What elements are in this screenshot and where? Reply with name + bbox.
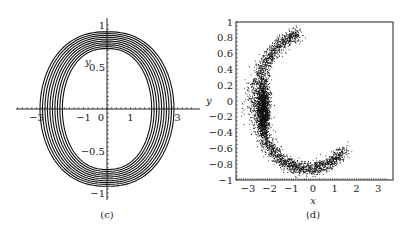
x-tick-label: 1 (332, 183, 338, 194)
y-tick-label: 0.5 (89, 62, 105, 73)
x-tick-label: −2 (262, 183, 277, 194)
x-tick-label: −1 (76, 112, 91, 123)
caption-d: (d) (306, 209, 320, 220)
y-axis-label: y (205, 95, 212, 106)
y-tick-label: −0.5 (81, 146, 105, 157)
x-tick-label: −1 (284, 183, 299, 194)
y-tick-label: −0.4 (209, 127, 233, 138)
y-tick-label: −0.8 (209, 159, 233, 170)
panel-c-phase-portrait: −3−101310.5−0.5−1y(c) (16, 18, 200, 220)
y-tick-label: 1 (99, 20, 105, 31)
y-tick-label: 0.8 (217, 32, 233, 43)
x-tick-label: 2 (353, 183, 359, 194)
y-tick-label: 1 (227, 17, 233, 28)
y-tick-label: 0.2 (217, 80, 233, 91)
panel-d-scatter: −3−2−1012310.80.60.40.20−0.2−0.4−0.6−0.8… (205, 17, 393, 221)
x-tick-label: 3 (375, 183, 381, 194)
caption-c: (c) (100, 209, 114, 220)
x-tick-label: 0 (310, 183, 316, 194)
y-tick-label: −0.6 (209, 143, 233, 154)
figure: −3−101310.5−0.5−1y(c) −3−2−1012310.80.60… (0, 0, 406, 233)
y-axis-label: y (84, 56, 91, 67)
x-tick-label: 1 (127, 112, 133, 123)
y-tick-label: −0.2 (209, 111, 233, 122)
y-tick-label: 0 (227, 96, 233, 107)
x-tick-label: −3 (29, 112, 44, 123)
scatter-points (241, 25, 352, 180)
y-tick-label: 0.6 (217, 48, 233, 59)
x-axis-label: x (310, 195, 316, 206)
plot-frame (236, 22, 393, 180)
y-tick-label: −1 (90, 188, 105, 199)
x-tick-label: 3 (174, 112, 180, 123)
x-tick-label: 0 (98, 112, 104, 123)
x-tick-label: −3 (241, 183, 256, 194)
y-tick-label: −1 (218, 175, 233, 186)
y-tick-label: 0.4 (217, 64, 233, 75)
